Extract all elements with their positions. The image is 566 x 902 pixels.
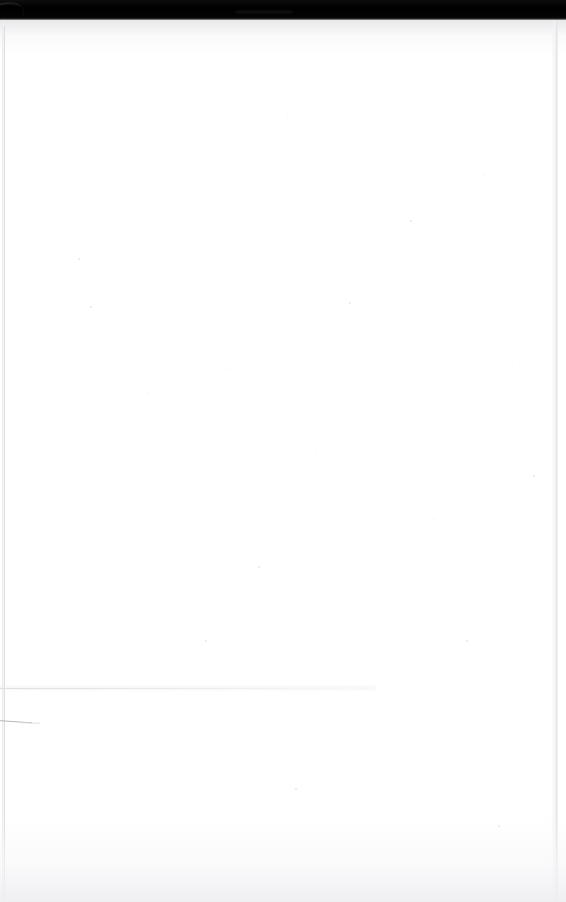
scanner-shadow-bar bbox=[0, 0, 566, 20]
right-scan-edge-hairline bbox=[556, 20, 557, 902]
bottom-shadow-wash bbox=[0, 816, 566, 902]
scanned-document-page bbox=[0, 0, 566, 902]
scanner-bar-gradient bbox=[0, 0, 566, 20]
scan-speck bbox=[533, 475, 535, 477]
left-scan-edge-hairline bbox=[4, 26, 5, 902]
scanner-bar-light-streak bbox=[236, 11, 292, 13]
top-shadow-wash bbox=[0, 20, 566, 54]
page-surface bbox=[0, 20, 566, 902]
scan-speck bbox=[498, 825, 500, 827]
page-body-text bbox=[40, 80, 526, 822]
diagonal-scan-stroke-tail bbox=[18, 722, 40, 724]
